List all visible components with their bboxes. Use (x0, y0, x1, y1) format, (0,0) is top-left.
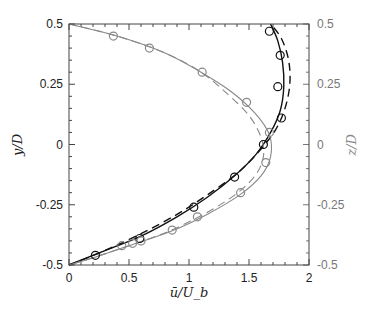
data-markers (91, 27, 285, 259)
profile-chart: 00.511.520.50.250-0.25-0.50.50.250-0.25-… (0, 0, 372, 318)
x-tick-label: 0.5 (121, 271, 138, 285)
right-y-tick-label: -0.5 (317, 258, 338, 272)
right-y-tick-label: 0 (317, 138, 324, 152)
x-tick-label: 1 (186, 271, 193, 285)
y-tick-label: 0.25 (40, 77, 64, 91)
y-tick-label: 0.5 (46, 17, 63, 31)
x-tick-label: 0 (66, 271, 73, 285)
right-y-tick-label: -0.25 (317, 198, 345, 212)
profile-line (69, 24, 264, 265)
right-y-tick-label: 0.5 (317, 17, 334, 31)
x-tick-label: 2 (306, 271, 313, 285)
profile-curves (69, 24, 290, 265)
right-y-tick-label: 0.25 (317, 77, 341, 91)
y-tick-label: -0.25 (36, 198, 64, 212)
y-axis-title: y/D (10, 133, 25, 157)
tick-labels: 00.511.520.50.250-0.25-0.50.50.250-0.25-… (36, 17, 345, 285)
x-axis-title-text: ū/U_b (170, 285, 209, 300)
right-y-axis-title: z/D (344, 134, 359, 157)
x-axis-title: ū/U_b (170, 285, 209, 300)
plot-frame (69, 24, 309, 265)
y-tick-label: -0.5 (42, 258, 63, 272)
y-tick-label: 0 (56, 138, 63, 152)
data-marker (265, 27, 273, 35)
data-marker (274, 83, 282, 91)
profile-line (69, 24, 272, 265)
x-tick-label: 1.5 (241, 271, 258, 285)
axis-ticks (69, 24, 309, 265)
data-marker (198, 68, 206, 76)
